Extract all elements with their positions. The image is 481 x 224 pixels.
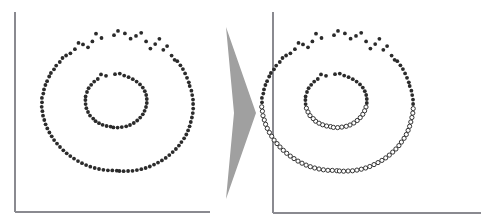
data-point-filled [54,64,58,68]
data-point-filled [106,168,110,172]
data-point-filled [381,48,385,52]
data-point-open [272,138,276,142]
data-point-filled [333,72,337,76]
data-point-open [411,107,415,111]
data-point-filled [269,71,273,75]
data-point-filled [96,77,100,81]
data-point-filled [143,109,147,113]
data-point-filled [41,92,45,96]
data-point-filled [134,34,138,38]
data-point-filled [411,98,415,102]
data-point-open [355,168,359,172]
data-point-filled [50,134,54,138]
data-point-filled [138,83,142,87]
data-point-filled [143,89,147,93]
data-point-filled [408,84,412,88]
data-point-filled [132,121,136,125]
data-point-filled [116,29,120,33]
data-point-filled [69,51,73,55]
data-point-filled [301,43,305,47]
data-point-open [364,166,368,170]
data-point-filled [188,84,192,88]
data-point-filled [48,131,52,135]
data-point-filled [336,29,340,33]
data-point-open [346,169,350,173]
data-point-filled [126,169,130,173]
data-point-filled [58,145,62,149]
data-point-filled [311,40,315,44]
data-point-open [278,145,282,149]
data-point-filled [44,122,48,126]
data-point-filled [61,56,65,60]
data-point-filled [365,101,369,105]
data-point-filled [167,153,171,157]
data-point-filled [284,54,288,58]
data-point-open [359,167,363,171]
data-point-filled [186,129,190,133]
data-point-filled [120,125,124,129]
data-point-open [337,169,341,173]
data-point-open [267,130,271,134]
data-point-filled [42,88,46,92]
data-point-filled [116,126,120,130]
data-point-filled [165,44,169,48]
data-point-filled [72,157,76,161]
data-point-open [368,164,372,168]
data-point-filled [86,45,90,49]
data-point-filled [190,89,194,93]
data-point-filled [86,110,90,114]
data-point-filled [141,112,145,116]
data-point-filled [40,100,44,104]
data-point-filled [189,120,193,124]
data-point-filled [87,86,91,90]
data-point-filled [97,167,101,171]
data-point-open [317,121,321,125]
scatter-figure [0,0,481,224]
data-point-filled [342,74,346,78]
data-point-filled [188,124,192,128]
data-point-filled [85,90,89,94]
data-point-filled [179,63,183,67]
data-point-open [387,153,391,157]
data-point-open [406,128,410,132]
data-point-open [296,159,300,163]
data-point-filled [365,97,369,101]
data-point-filled [272,67,276,71]
data-point-filled [267,75,271,79]
data-point-filled [343,32,347,36]
data-point-open [411,111,415,115]
data-point-filled [122,169,126,173]
data-point-filled [191,102,195,106]
data-point-filled [373,42,377,46]
data-point-filled [369,47,373,51]
data-point-open [363,109,367,113]
data-point-filled [161,48,165,52]
data-point-filled [304,102,308,106]
data-point-filled [89,83,93,87]
data-point-filled [378,37,382,41]
data-point-filled [187,80,191,84]
data-point-filled [349,37,353,41]
data-point-filled [91,117,95,121]
data-point-filled [399,63,403,67]
data-point-filled [129,37,133,41]
data-point-filled [281,56,285,60]
data-point-filled [364,93,368,97]
data-point-filled [144,93,148,97]
data-point-filled [173,58,177,62]
data-point-open [350,169,354,173]
data-point-filled [191,98,195,102]
data-point-open [311,117,315,121]
data-point-filled [293,47,297,51]
data-point-filled [40,105,44,109]
data-point-filled [407,80,411,84]
data-point-filled [390,54,394,58]
data-point-filled [338,72,342,76]
data-point-filled [393,58,397,62]
data-point-filled [112,33,116,37]
data-point-open [342,169,346,173]
data-point-open [331,125,335,129]
data-point-open [404,132,408,136]
data-point-filled [160,159,164,163]
data-point-filled [171,150,175,154]
